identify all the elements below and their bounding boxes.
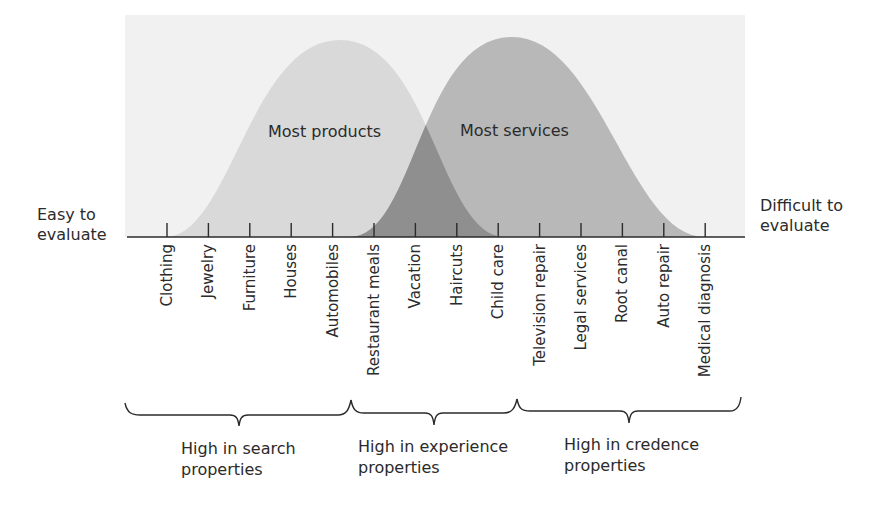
item-label: Vacation [406, 244, 424, 308]
item-labels: ClothingJewelryFurnitureHousesAutomobile… [158, 243, 714, 377]
item-label: Television repair [531, 243, 549, 367]
group-braces [125, 397, 741, 426]
group-label-experience: High in experience properties [358, 436, 548, 478]
services-curve-label: Most services [460, 121, 569, 140]
group-label-search-line2: properties [181, 459, 371, 480]
item-label: Clothing [158, 244, 176, 306]
item-label: Automobiles [324, 244, 342, 338]
brace-search [125, 400, 351, 426]
brace-experience [351, 399, 517, 425]
group-label-search: High in search properties [181, 438, 371, 480]
item-label: Jewelry [199, 244, 217, 299]
item-label: Child care [489, 244, 507, 319]
group-label-credence-line1: High in credence [564, 434, 754, 455]
item-label: Furniture [241, 244, 259, 311]
group-label-experience-line2: properties [358, 457, 548, 478]
left-axis-label-line1: Easy to [37, 205, 107, 225]
item-label: Medical diagnosis [696, 244, 714, 377]
products-curve-label: Most products [268, 122, 381, 141]
right-axis-label: Difficult to evaluate [760, 196, 843, 236]
item-label: Auto repair [655, 243, 673, 328]
item-label: Haircuts [448, 244, 466, 306]
group-label-search-line1: High in search [181, 438, 371, 459]
item-label: Restaurant meals [365, 244, 383, 376]
group-label-experience-line1: High in experience [358, 436, 548, 457]
left-axis-label-line2: evaluate [37, 225, 107, 245]
group-label-credence: High in credence properties [564, 434, 754, 476]
group-label-credence-line2: properties [564, 455, 754, 476]
right-axis-label-line1: Difficult to [760, 196, 843, 216]
brace-credence [517, 397, 741, 423]
item-label: Houses [282, 244, 300, 299]
item-label: Root canal [613, 244, 631, 323]
right-axis-label-line2: evaluate [760, 216, 843, 236]
left-axis-label: Easy to evaluate [37, 205, 107, 245]
item-label: Legal services [572, 244, 590, 351]
